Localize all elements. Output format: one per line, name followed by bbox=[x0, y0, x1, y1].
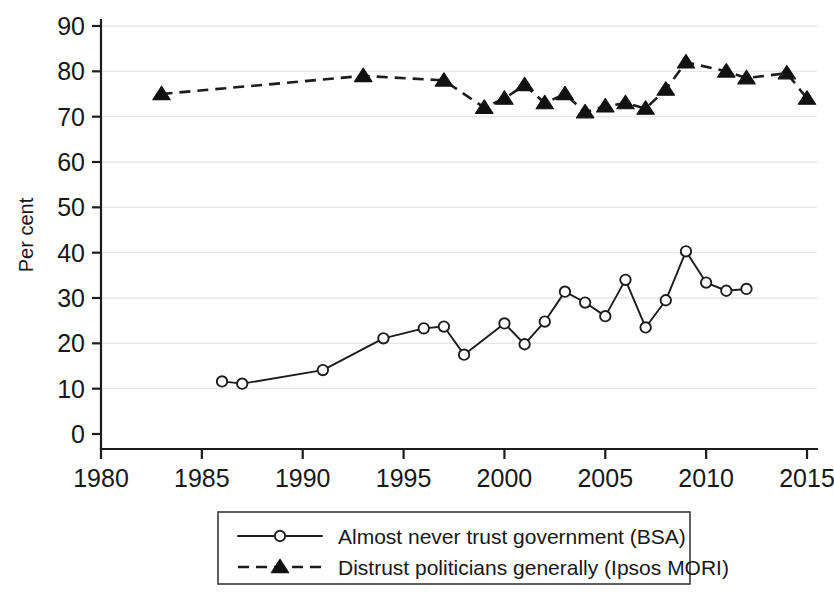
y-axis-title: Per cent bbox=[15, 197, 37, 272]
series-line bbox=[222, 251, 746, 383]
data-point-circle bbox=[318, 365, 328, 375]
data-point-circle bbox=[620, 275, 630, 285]
y-tick-label: 40 bbox=[57, 239, 85, 267]
data-point-circle bbox=[439, 321, 449, 331]
x-tick-label: 1995 bbox=[376, 464, 432, 492]
data-point-circle bbox=[560, 286, 570, 296]
series-2 bbox=[153, 55, 816, 118]
y-tick-label: 50 bbox=[57, 193, 85, 221]
data-point-circle bbox=[681, 246, 691, 256]
x-tick-label: 1980 bbox=[73, 464, 129, 492]
data-point-triangle bbox=[355, 68, 372, 81]
y-tick-label: 0 bbox=[71, 420, 85, 448]
data-point-circle bbox=[661, 295, 671, 305]
legend-item-label: Distrust politicians generally (Ipsos MO… bbox=[338, 556, 729, 579]
line-chart: 0102030405060708090 19801985199019952000… bbox=[0, 0, 834, 612]
data-point-circle bbox=[580, 297, 590, 307]
data-point-triangle bbox=[677, 55, 694, 68]
x-tick-label: 2000 bbox=[477, 464, 533, 492]
y-tick-label: 20 bbox=[57, 329, 85, 357]
chart-container: 0102030405060708090 19801985199019952000… bbox=[0, 0, 834, 612]
y-axis: 0102030405060708090 bbox=[57, 12, 101, 449]
data-point-triangle bbox=[597, 99, 614, 112]
y-tick-label: 70 bbox=[57, 103, 85, 131]
data-point-circle bbox=[378, 333, 388, 343]
data-point-circle bbox=[741, 284, 751, 294]
data-point-circle bbox=[540, 316, 550, 326]
x-tick-label: 1985 bbox=[174, 464, 230, 492]
x-tick-label: 2005 bbox=[577, 464, 633, 492]
data-point-triangle bbox=[516, 77, 533, 90]
data-point-circle bbox=[459, 349, 469, 359]
legend-item-label: Almost never trust government (BSA) bbox=[338, 525, 686, 548]
y-tick-label: 80 bbox=[57, 57, 85, 85]
x-tick-label: 1990 bbox=[275, 464, 331, 492]
x-tick-label: 2015 bbox=[779, 464, 834, 492]
data-point-triangle bbox=[476, 100, 493, 113]
legend: Almost never trust government (BSA)Distr… bbox=[218, 512, 729, 584]
data-point-circle bbox=[519, 339, 529, 349]
x-tick-label: 2010 bbox=[678, 464, 734, 492]
data-point-circle bbox=[600, 311, 610, 321]
y-tick-label: 90 bbox=[57, 12, 85, 40]
gridlines bbox=[101, 26, 817, 389]
data-point-triangle bbox=[657, 82, 674, 95]
data-point-triangle bbox=[617, 95, 634, 108]
data-point-circle bbox=[237, 378, 247, 388]
legend-marker-circle bbox=[275, 531, 285, 541]
data-point-triangle bbox=[556, 86, 573, 99]
data-point-circle bbox=[499, 318, 509, 328]
y-tick-label: 30 bbox=[57, 284, 85, 312]
data-point-circle bbox=[419, 323, 429, 333]
y-tick-label: 60 bbox=[57, 148, 85, 176]
data-point-circle bbox=[721, 286, 731, 296]
x-axis-ticks: 19801985199019952000200520102015 bbox=[73, 449, 834, 492]
y-axis-ticks: 0102030405060708090 bbox=[57, 12, 101, 448]
series-1 bbox=[217, 246, 752, 389]
x-axis: 19801985199019952000200520102015 bbox=[73, 449, 834, 492]
data-point-circle bbox=[701, 277, 711, 287]
data-point-circle bbox=[640, 322, 650, 332]
data-point-triangle bbox=[496, 91, 513, 104]
y-tick-label: 10 bbox=[57, 375, 85, 403]
data-point-triangle bbox=[778, 65, 795, 78]
data-series-layer bbox=[153, 55, 816, 389]
data-point-circle bbox=[217, 376, 227, 386]
